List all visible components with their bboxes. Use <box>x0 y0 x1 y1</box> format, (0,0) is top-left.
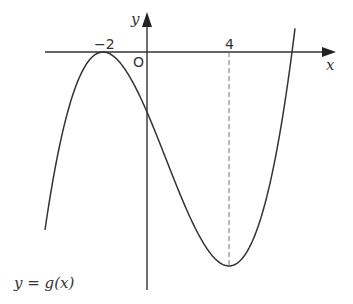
origin-label: O <box>133 55 144 69</box>
curve-label-eq: = g(x) <box>22 274 74 292</box>
curve-g <box>45 28 295 266</box>
tick-label-4: 4 <box>225 37 234 51</box>
y-axis-arrow-icon <box>142 12 152 27</box>
x-axis-label: x <box>326 58 334 73</box>
tick-label-neg2: −2 <box>94 37 115 51</box>
curve-label: y = g(x) <box>14 276 74 291</box>
y-axis-label: y <box>131 12 139 27</box>
graph-canvas <box>0 0 353 304</box>
